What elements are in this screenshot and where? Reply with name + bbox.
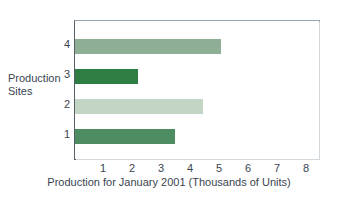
y-tick-label-2: 2 (54, 99, 70, 110)
x-tick-label-4: 4 (180, 162, 200, 174)
y-tick-label-1: 1 (54, 129, 70, 140)
bar-site-2 (75, 99, 203, 114)
bar-site-4 (75, 39, 221, 54)
y-tick-label-4: 4 (54, 39, 70, 50)
x-tick-label-8: 8 (296, 162, 316, 174)
x-tick-label-7: 7 (267, 162, 287, 174)
bar-chart: Production Sites 4 3 2 1 1 2 3 4 5 6 7 8… (0, 0, 338, 198)
bar-site-1 (75, 129, 175, 144)
x-tick-label-3: 3 (151, 162, 171, 174)
x-tick-label-1: 1 (93, 162, 113, 174)
x-tick-label-5: 5 (209, 162, 229, 174)
x-axis-title: Production for January 2001 (Thousands o… (0, 176, 338, 189)
x-tick-label-6: 6 (238, 162, 258, 174)
plot-area (74, 20, 320, 160)
bar-site-3 (75, 69, 138, 84)
x-tick-label-2: 2 (122, 162, 142, 174)
y-tick-label-3: 3 (54, 69, 70, 80)
